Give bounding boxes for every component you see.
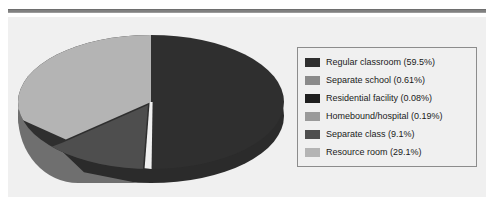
legend-item: Separate school (0.61%) (305, 71, 470, 89)
header-rule (8, 9, 486, 13)
legend-swatch-residential-facility (305, 94, 320, 103)
legend-item: Resource room (29.1%) (305, 143, 470, 161)
legend-item: Residential facility (0.08%) (305, 89, 470, 107)
legend-label-regular-classroom: Regular classroom (59.5%) (326, 57, 435, 67)
pie-top-face (18, 35, 284, 169)
plot-panel: Regular classroom (59.5%) Separate schoo… (8, 17, 486, 197)
chart-legend: Regular classroom (59.5%) Separate schoo… (297, 47, 477, 167)
legend-swatch-regular-classroom (305, 58, 320, 67)
pie-chart-figure: Regular classroom (59.5%) Separate schoo… (0, 0, 496, 214)
legend-item: Regular classroom (59.5%) (305, 53, 470, 71)
pie-graphic (18, 27, 284, 187)
legend-swatch-homebound-hospital (305, 112, 320, 121)
legend-item: Separate class (9.1%) (305, 125, 470, 143)
legend-swatch-resource-room (305, 148, 320, 157)
legend-label-resource-room: Resource room (29.1%) (326, 147, 422, 157)
legend-item: Homebound/hospital (0.19%) (305, 107, 470, 125)
legend-swatch-separate-school (305, 76, 320, 85)
legend-label-separate-class: Separate class (9.1%) (326, 129, 415, 139)
legend-label-residential-facility: Residential facility (0.08%) (326, 93, 432, 103)
legend-swatch-separate-class (305, 130, 320, 139)
legend-label-homebound-hospital: Homebound/hospital (0.19%) (326, 111, 443, 121)
legend-label-separate-school: Separate school (0.61%) (326, 75, 425, 85)
